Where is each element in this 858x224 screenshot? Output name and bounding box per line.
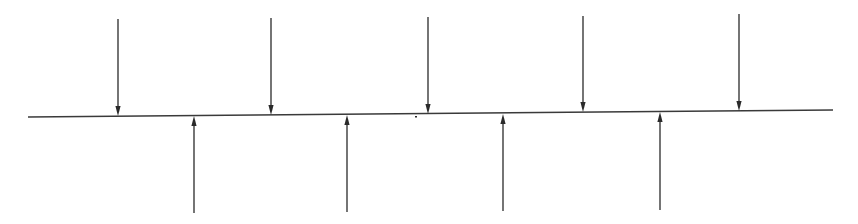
downward-loads xyxy=(115,14,741,116)
arrowhead-icon xyxy=(344,115,349,125)
arrowhead-icon xyxy=(115,106,120,116)
down-arrow-3 xyxy=(425,17,430,114)
arrowhead-icon xyxy=(736,101,741,111)
arrowhead-icon xyxy=(580,102,585,112)
arrowhead-icon xyxy=(191,116,196,126)
upward-reactions xyxy=(191,112,662,213)
beam-line xyxy=(28,110,833,117)
arrowhead-icon xyxy=(268,105,273,115)
beam-load-diagram xyxy=(0,0,858,224)
down-arrow-4 xyxy=(580,16,585,112)
down-arrow-5 xyxy=(736,14,741,111)
beam xyxy=(28,110,833,117)
arrowhead-icon xyxy=(425,104,430,114)
up-arrow-4 xyxy=(657,112,662,210)
up-arrow-2 xyxy=(344,115,349,212)
marks xyxy=(415,116,417,118)
arrowhead-icon xyxy=(657,112,662,122)
down-arrow-1 xyxy=(115,19,120,116)
down-arrow-2 xyxy=(268,18,273,115)
dot-mark xyxy=(415,116,417,118)
up-arrow-1 xyxy=(191,116,196,213)
arrowhead-icon xyxy=(500,114,505,124)
up-arrow-3 xyxy=(500,114,505,211)
